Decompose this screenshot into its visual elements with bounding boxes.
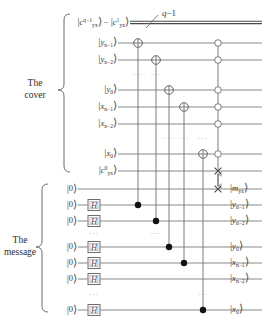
cover-output-y-n1: |yn−1⟩ [230,199,249,210]
message-input-msg-3: |0⟩ [67,242,77,253]
section-label-cover: The cover [24,78,45,102]
ellipsis-message-left: ··· [89,230,99,238]
section-label-message: The message [4,235,36,259]
bundle-width-label: q−1 [162,9,176,18]
message-input-msg-1: |0⟩ [67,200,77,211]
message-input-msg-6: |0⟩ [67,305,77,316]
ellipsis-cover-col2: ··· [151,71,161,79]
control-link-2 [152,56,160,224]
message-input-msg-5: |0⟩ [67,274,77,285]
quantum-circuit-figure: |cq−1yx⟩ − |c1yx⟩ |yn−1⟩ |yn−2⟩ |y0⟩ |xn… [0,0,272,328]
hadamard-gate-msg-6[interactable]: H [88,304,101,316]
hadamard-gate-msg-3[interactable]: H [88,241,101,253]
cover-output-m: |myx⟩ [230,183,248,194]
open-control-column [215,40,222,175]
xor-y-0-target [165,86,173,94]
section-label-cover-line2: cover [24,90,45,102]
brace-cover [58,14,70,172]
xor-x-n1-target [180,103,188,111]
ellipsis-message-bottom: ··· [89,291,99,299]
ellipsis-cover-col4: ··· [179,135,189,143]
message-input-msg-4: |0⟩ [67,258,77,269]
section-label-message-line1: The [4,235,36,247]
ellipsis-cover-col1: ··· [133,71,143,79]
ellipsis-open-column: ··· [198,135,208,143]
cover-input-x-n2: |xn−2⟩ [98,118,117,129]
control-link-5 [199,150,207,313]
cover-output-x-0: |x0⟩ [230,304,243,315]
cover-input-c-0: |c0yx⟩ [99,165,117,176]
control-link-1 [134,39,142,208]
cover-input-y-n2: |yn−2⟩ [98,54,117,65]
wire-c-bundle [130,15,262,28]
cover-input-y-n1: |yn−1⟩ [98,37,117,48]
hadamard-label: H [89,242,100,252]
cover-output-x-n2: |xn−2⟩ [230,273,249,284]
section-label-cover-line1: The [24,78,45,90]
message-input-msg-0: |0⟩ [67,184,77,195]
cover-output-y-n2: |yn−2⟩ [230,215,249,226]
message-input-msg-2: |0⟩ [67,216,77,227]
xor-y-n1-target [134,39,142,47]
brace-message [36,184,48,312]
ellipsis-cover-col3: ··· [164,135,174,143]
cover-input-y-0: |y0⟩ [104,84,117,95]
hadamard-gate-msg-4[interactable]: H [88,257,101,269]
ellipsis-message-link: ··· [151,230,161,238]
control-link-4 [180,103,188,266]
cover-input-c-bundle: |cq−1yx⟩ − |c1yx⟩ [77,17,129,28]
hadamard-label: H [89,216,100,226]
hadamard-gate-msg-1[interactable]: H [88,199,101,211]
hadamard-gate-msg-2[interactable]: H [88,215,101,227]
xor-y-n2-target [152,56,160,64]
hadamard-label: H [89,305,100,315]
hadamard-label: H [89,274,100,284]
xor-x-0-target [199,150,207,158]
hadamard-gate-msg-5[interactable]: H [88,273,101,285]
control-link-3 [165,86,173,250]
ellipsis-message-link-2: ··· [198,291,208,299]
cover-output-y-0: |y0⟩ [230,241,243,252]
cover-input-x-n1: |xn−1⟩ [98,101,117,112]
cover-input-x-0: |x0⟩ [104,148,117,159]
hadamard-label: H [89,258,100,268]
section-label-message-line2: message [4,247,36,259]
hadamard-label: H [89,200,100,210]
cover-output-x-n1: |xn−1⟩ [230,257,249,268]
swap-connector [215,174,222,192]
